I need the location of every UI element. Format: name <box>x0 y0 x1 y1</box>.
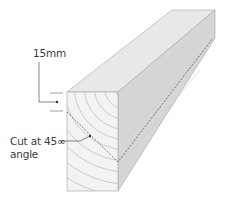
cut-label-line2: angle <box>10 148 38 160</box>
offset-leader <box>39 62 57 102</box>
cut-label-line1: Cut at 45∞ <box>10 135 65 147</box>
offset-leader-dot <box>56 101 58 103</box>
cut-leader-dot <box>89 135 91 137</box>
beam-diagram <box>0 0 225 202</box>
offset-label: 15mm <box>33 47 66 59</box>
beam-front-face <box>67 92 118 191</box>
